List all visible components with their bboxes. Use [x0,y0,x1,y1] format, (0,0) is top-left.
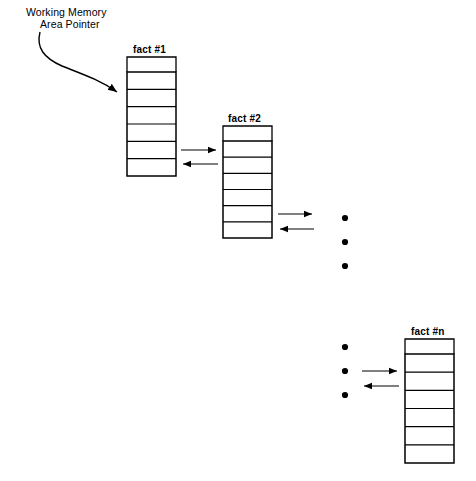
ellipsis-lower [342,344,348,398]
fact-2-label: fact #2 [228,113,261,124]
ellipsis-upper [342,215,348,269]
working-memory-pointer-arrow [39,32,117,92]
working-memory-pointer-label-line1: Working Memory [26,6,107,19]
ellipsis-dot [342,239,348,245]
figure-canvas: Working Memory Area Pointer fact #1 fact… [0,0,476,481]
fact-block-fact-2 [223,126,272,238]
fact-block-fact-n [405,339,454,463]
fact-1-bracket [127,57,176,72]
diagram-vector-layer [0,0,476,481]
fact-n-bracket [405,339,454,354]
working-memory-pointer-label-line2: Area Pointer [40,18,100,31]
ellipsis-dot [342,392,348,398]
fact-n-label: fact #n [411,326,445,337]
fact-block-fact-1 [127,57,176,176]
ellipsis-dot [342,215,348,221]
fact-2-bracket [223,126,272,141]
ellipsis-dot [342,344,348,350]
fact-1-label: fact #1 [133,44,166,55]
ellipsis-dot [342,368,348,374]
ellipsis-dot [342,263,348,269]
